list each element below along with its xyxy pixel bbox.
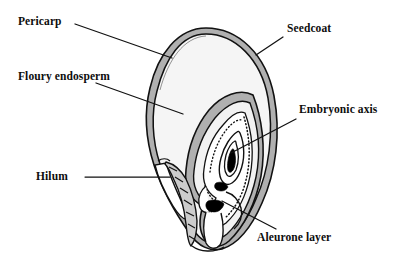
leader-line-pericarp — [75, 24, 172, 58]
label-aleurone-layer: Aleurone layer — [257, 232, 331, 244]
seed-diagram — [0, 0, 403, 260]
label-embryonic-axis: Embryonic axis — [299, 104, 377, 116]
seed-anatomy-figure: Pericarp Floury endosperm Hilum Seedcoat… — [0, 0, 403, 260]
radicle-channel — [204, 212, 223, 248]
leader-line-seedcoat — [256, 37, 283, 55]
label-hilum: Hilum — [36, 171, 68, 183]
label-floury-endosperm: Floury endosperm — [18, 71, 110, 83]
label-seedcoat: Seedcoat — [287, 23, 331, 35]
label-pericarp: Pericarp — [18, 16, 62, 28]
